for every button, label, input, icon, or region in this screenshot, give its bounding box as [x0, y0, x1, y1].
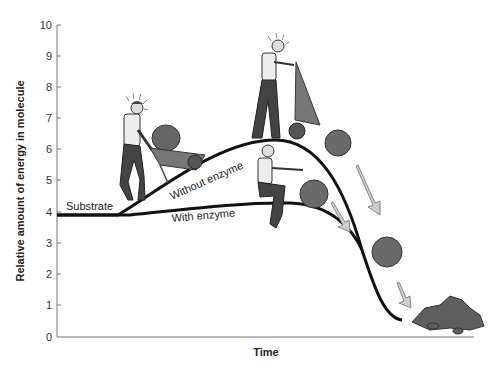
man-sitting-illustration: [258, 145, 303, 228]
y-axis-title: Relative amount of energy in molecule: [14, 80, 26, 281]
tick-label-5: 5: [46, 174, 52, 186]
substrate-label: Substrate: [66, 200, 113, 212]
x-axis-title: Time: [253, 346, 278, 358]
tick-label-9: 9: [46, 50, 52, 62]
tick-label-8: 8: [46, 81, 52, 93]
tick-label-10: 10: [40, 19, 52, 31]
boulder-illustrations: [300, 130, 402, 267]
energy-diagram: 10 9 8 7 6 5 4 3 2 1 0 Relative amount o…: [0, 0, 500, 370]
y-ticks: [57, 25, 61, 305]
man-at-peak-illustration: [252, 33, 320, 139]
tick-label-4: 4: [46, 206, 52, 218]
tick-label-1: 1: [46, 299, 52, 311]
tick-label-2: 2: [46, 268, 52, 280]
tick-label-0: 0: [46, 331, 52, 343]
rubble-pile-illustration: [412, 296, 484, 334]
downward-arrows: [331, 165, 411, 308]
tick-label-6: 6: [46, 143, 52, 155]
tick-label-7: 7: [46, 112, 52, 124]
tick-label-3: 3: [46, 237, 52, 249]
y-tick-labels: 10 9 8 7 6 5 4 3 2 1 0: [40, 19, 52, 343]
